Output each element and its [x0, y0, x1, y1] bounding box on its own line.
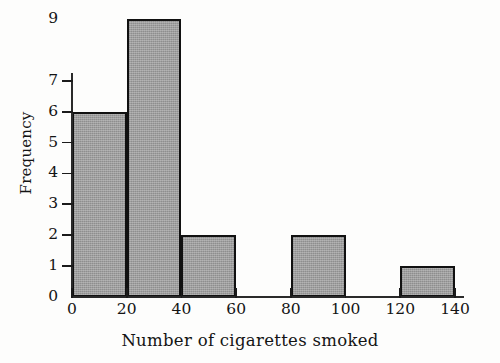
bar-bin-0-20 — [72, 112, 127, 297]
x-tick-label-140: 140 — [433, 302, 477, 318]
x-tick-label-60: 60 — [214, 302, 258, 318]
bar-bin-80-100 — [291, 235, 346, 297]
x-tick-40 — [181, 288, 183, 298]
y-tick-1 — [62, 265, 73, 267]
x-tick-20 — [126, 288, 128, 298]
y-tick-2 — [62, 234, 73, 236]
y-tick-label-1: 1 — [36, 258, 58, 274]
y-tick-label-5: 5 — [36, 135, 58, 151]
bar-bin-20-40 — [127, 19, 182, 297]
y-tick-label-4: 4 — [36, 166, 58, 182]
y-axis-title: Frequency — [17, 108, 35, 198]
y-axis-line — [71, 73, 73, 297]
y-tick-label-7: 7 — [36, 73, 58, 89]
y-tick-7 — [62, 80, 73, 82]
x-tick-label-40: 40 — [159, 302, 203, 318]
y-tick-6 — [62, 111, 73, 113]
x-tick-label-100: 100 — [324, 302, 368, 318]
x-tick-label-0: 0 — [50, 302, 94, 318]
x-tick-label-120: 120 — [378, 302, 422, 318]
x-tick-80 — [290, 288, 292, 298]
y-tick-5 — [62, 142, 73, 144]
y-tick-3 — [62, 203, 73, 205]
y-tick-label-2: 2 — [36, 227, 58, 243]
x-tick-100 — [345, 288, 347, 298]
x-axis-title: Number of cigarettes smoked — [0, 331, 500, 350]
x-tick-label-80: 80 — [269, 302, 313, 318]
y-tick-label-6: 6 — [36, 104, 58, 120]
plot-area: 012345679 020406080100120140 Frequency N… — [0, 0, 500, 363]
y-tick-label-9: 9 — [36, 11, 58, 27]
bar-bin-40-60 — [181, 235, 236, 297]
x-tick-60 — [235, 288, 237, 298]
x-tick-0 — [71, 288, 73, 298]
x-axis-line — [71, 296, 464, 298]
y-tick-label-3: 3 — [36, 197, 58, 213]
x-tick-120 — [399, 288, 401, 298]
histogram-figure: 012345679 020406080100120140 Frequency N… — [0, 0, 500, 363]
x-tick-label-20: 20 — [105, 302, 149, 318]
x-tick-140 — [454, 288, 456, 298]
bar-bin-120-140 — [400, 266, 455, 297]
y-tick-4 — [62, 173, 73, 175]
